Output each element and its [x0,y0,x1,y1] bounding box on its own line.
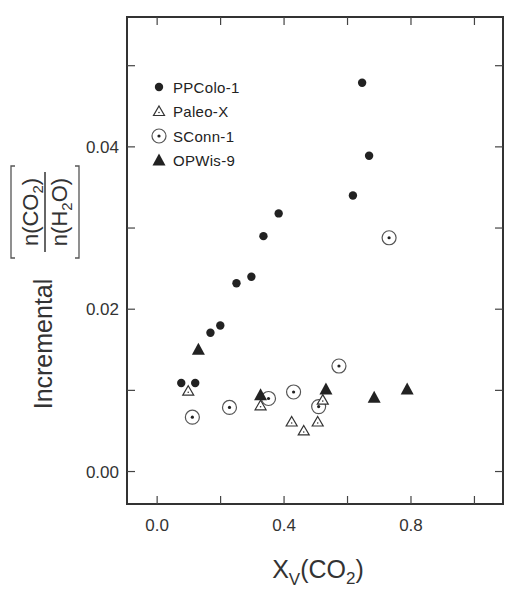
open-triangle-point [298,425,309,435]
filled-circle-point [365,152,373,160]
x-axis-tick-labels: 0.00.40.8 [145,516,422,535]
filled-triangle-point [192,343,205,355]
filled-circle-point [247,273,255,281]
y-tick-label: 0.02 [86,300,119,319]
y-axis-title-numerator: n(CO2) [18,178,46,246]
left-bracket [11,166,15,258]
filled-circle-point [274,209,282,217]
y-tick-label: 0.00 [86,463,119,482]
filled-circle-point [358,79,366,87]
legend-item: SConn-1 [152,128,234,145]
legend: PPColo-1Paleo-XSConn-1OPWis-9 [152,79,240,170]
filled-triangle-point [254,388,267,400]
filled-circle-point [216,321,224,329]
legend-label: PPColo-1 [173,79,240,96]
dotted-circle-point [287,385,301,399]
filled-triangle-point [319,383,332,395]
x-tick-label: 0.4 [272,516,296,535]
filled-circle-point [232,279,240,287]
filled-circle-icon [155,83,163,91]
open-triangle-icon [154,106,165,116]
filled-triangle-icon [153,154,166,166]
y-axis-title-word: Incremental [29,279,57,410]
dotted-circle-icon [152,129,166,143]
filled-triangle-point [401,383,414,395]
legend-item: PPColo-1 [155,79,240,96]
legend-label: OPWis-9 [173,152,235,169]
dotted-circle-point [332,359,346,373]
y-tick-label: 0.04 [86,138,119,157]
filled-circle-point [259,232,267,240]
right-bracket [75,166,79,258]
filled-circle-point [349,191,357,199]
y-axis-title-denominator: n(H2O) [47,178,75,246]
dotted-circle-point [185,410,199,424]
legend-item: OPWis-9 [153,152,236,169]
filled-circle-point [177,379,185,387]
x-tick-label: 0.8 [399,516,423,535]
filled-circle-point [191,379,199,387]
x-axis-title: XV(CO2) [272,555,364,589]
legend-label: Paleo-X [173,103,228,120]
y-axis-title-fraction: n(CO2) n(H2O) [11,166,79,258]
open-triangle-point [255,400,266,410]
legend-label: SConn-1 [173,128,234,145]
y-axis-title: Incremental n(CO2) n(H2O) [11,166,79,409]
dotted-circle-point [222,400,236,414]
filled-triangle-point [368,391,381,403]
scatter-chart: 0.00.40.8 0.000.020.04 PPColo-1Paleo-XSC… [0,0,523,595]
filled-circle-point [206,329,214,337]
open-triangle-point [312,417,323,427]
open-triangle-point [183,386,194,396]
legend-item: Paleo-X [154,103,229,120]
open-triangle-point [286,417,297,427]
dotted-circle-point [382,231,396,245]
y-axis-tick-labels: 0.000.020.04 [86,138,119,482]
x-tick-label: 0.0 [145,516,169,535]
